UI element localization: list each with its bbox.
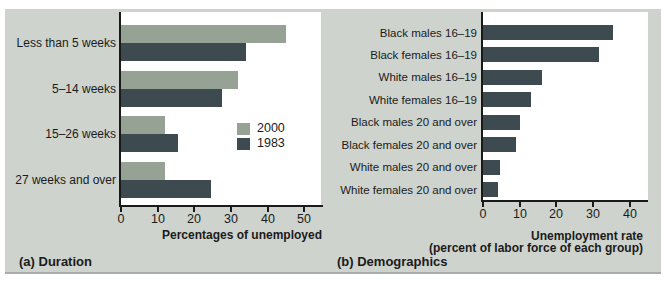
- legend-swatch-2000: [237, 123, 250, 135]
- category-label: White males 16–19: [330, 70, 477, 84]
- x-axis-title-duration: Percentages of unemployed: [121, 229, 322, 242]
- bar-1983-1: [121, 89, 222, 107]
- category-label: White females 20 and over: [330, 183, 477, 197]
- category-label: 5–14 weeks: [2, 82, 116, 96]
- x-tick-label: 20: [179, 213, 209, 226]
- category-label: Black females 20 and over: [330, 138, 477, 152]
- figure: Less than 5 weeks5–14 weeks15–26 weeks27…: [0, 0, 663, 282]
- category-label: 27 weeks and over: [2, 173, 116, 187]
- legend-row: 2000: [237, 121, 285, 136]
- x-axis-line-duration: [119, 205, 323, 207]
- x-tick-label: 30: [578, 208, 608, 221]
- x-tick-label: 10: [143, 213, 173, 226]
- bar-2000-3: [121, 162, 165, 180]
- x-tick-label: 50: [289, 213, 319, 226]
- bar-1983-2: [121, 134, 178, 152]
- x-tick-label: 30: [216, 213, 246, 226]
- x-axis-line-demographics: [481, 200, 648, 202]
- bar-Unemployment rate-7: [483, 182, 498, 197]
- bar-Unemployment rate-0: [483, 25, 613, 40]
- legend: 20001983: [237, 121, 285, 151]
- bar-Unemployment rate-3: [483, 92, 531, 107]
- caption-duration: (a) Duration: [19, 254, 92, 269]
- x-tick-label: 10: [505, 208, 535, 221]
- bar-Unemployment rate-1: [483, 47, 599, 62]
- category-label: Less than 5 weeks: [2, 36, 116, 50]
- bar-Unemployment rate-4: [483, 115, 520, 130]
- legend-swatch-1983: [237, 138, 250, 150]
- x-tick-label: 40: [615, 208, 645, 221]
- x-tick-label: 20: [541, 208, 571, 221]
- bar-1983-3: [121, 180, 211, 198]
- legend-row: 1983: [237, 136, 285, 151]
- legend-label-1983: 1983: [257, 137, 285, 150]
- bar-Unemployment rate-2: [483, 70, 542, 85]
- bar-Unemployment rate-6: [483, 160, 500, 175]
- x-tick-label: 0: [468, 208, 498, 221]
- x-tick-label: 40: [253, 213, 283, 226]
- bar-2000-1: [121, 71, 238, 89]
- x-tick-label: 0: [106, 213, 136, 226]
- bar-Unemployment rate-5: [483, 137, 516, 152]
- category-label: White females 16–19: [330, 93, 477, 107]
- category-label: Black males 16–19: [330, 26, 477, 40]
- category-label: White males 20 and over: [330, 160, 477, 174]
- legend-label-2000: 2000: [257, 122, 285, 135]
- category-label: Black females 16–19: [330, 48, 477, 62]
- bar-2000-2: [121, 116, 165, 134]
- bar-1983-0: [121, 43, 246, 61]
- bar-2000-0: [121, 25, 286, 43]
- caption-demographics: (b) Demographics: [337, 254, 448, 269]
- category-label: 15–26 weeks: [2, 127, 116, 141]
- category-label: Black males 20 and over: [330, 115, 477, 129]
